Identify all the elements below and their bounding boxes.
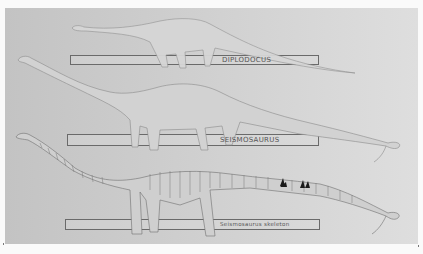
- seismosaurus-silhouette: [18, 56, 400, 162]
- edge-mark: [418, 245, 419, 247]
- diplodocus-label: DIPLODOCUS: [222, 56, 271, 64]
- skeleton-label: Seismosaurus skeleton: [220, 221, 290, 227]
- diplodocus-silhouette: [72, 19, 355, 73]
- seismosaurus-label: SEISMOSAURUS: [220, 136, 279, 144]
- dinosaur-illustrations: [0, 0, 423, 254]
- edge-mark: [3, 243, 4, 245]
